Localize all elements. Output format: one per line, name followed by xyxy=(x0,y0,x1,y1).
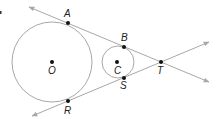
label-s: S xyxy=(120,80,127,91)
label-o: O xyxy=(48,65,56,76)
label-a: A xyxy=(63,8,71,19)
tangent-RST-line xyxy=(32,42,209,116)
label-t: T xyxy=(157,65,164,76)
label-c: C xyxy=(114,65,122,76)
point-r xyxy=(66,99,70,103)
label-b: B xyxy=(121,32,128,43)
point-o xyxy=(50,60,54,64)
tangent-circles-diagram: ABOCTSR xyxy=(0,0,221,119)
point-t xyxy=(159,60,163,64)
edge-mark xyxy=(0,11,2,14)
label-r: R xyxy=(64,105,71,116)
point-a xyxy=(66,21,70,25)
point-b xyxy=(122,45,126,49)
point-c xyxy=(115,60,119,64)
